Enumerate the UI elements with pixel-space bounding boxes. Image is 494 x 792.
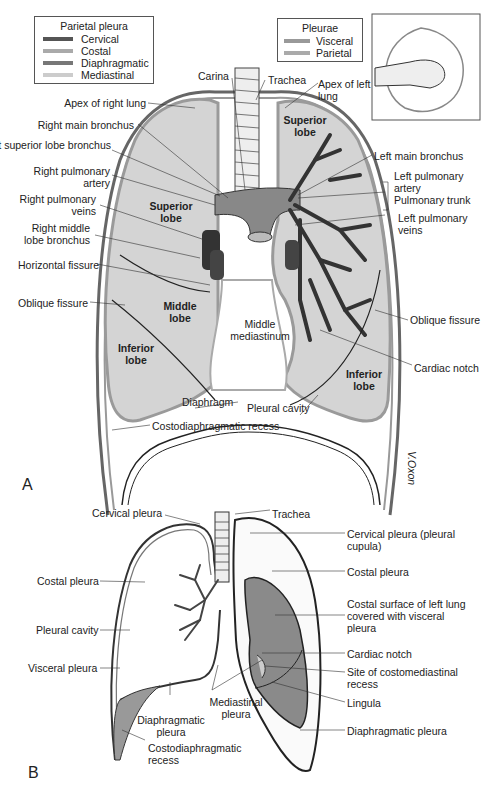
label-apex-left-lung: Apex of left lung: [318, 78, 372, 102]
legend-pleurae: Pleurae Visceral Parietal: [277, 18, 363, 62]
label-right-main-bronchus: Right main bronchus: [38, 119, 134, 131]
panel-label-a: A: [22, 476, 33, 494]
legend-item-mediastinal: Mediastinal: [35, 69, 153, 81]
legend-item-cervical: Cervical: [35, 33, 153, 45]
label-visceral-pleura-b: Visceral pleura: [28, 662, 97, 674]
lobe-left-superior: Superior lobe: [280, 114, 330, 138]
label-costal-pleura-b-left: Costal pleura: [37, 575, 99, 587]
lobe-right-middle: Middle lobe: [160, 300, 200, 324]
label-costodiaphragmatic-recess-a: Costodiaphragmatic recess: [152, 420, 279, 432]
label-diaphragm: Diaphragm: [182, 396, 233, 408]
label-trachea-b: Trachea: [272, 508, 310, 520]
label-right-superior-lobe-bronchus: Right superior lobe bronchus: [0, 139, 111, 151]
label-lingula: Lingula: [347, 697, 381, 709]
label-pulmonary-trunk: Pulmonary trunk: [394, 194, 470, 206]
legend-item-parietal: Parietal: [278, 47, 362, 59]
lobe-left-inferior: Inferior lobe: [340, 368, 388, 392]
bronchial-tree-b: [175, 565, 218, 640]
label-apex-right-lung: Apex of right lung: [64, 97, 146, 109]
label-costal-pleura-b-right: Costal pleura: [347, 566, 409, 578]
label-pleural-cavity-a: Pleural cavity: [247, 402, 309, 414]
label-costomediastinal-recess: Site of costomediastinal recess: [347, 666, 467, 690]
legend-item-visceral: Visceral: [278, 35, 362, 47]
label-middle-mediastinum: Middle mediastinum: [230, 318, 290, 342]
label-cervical-pleura-b: Cervical pleura: [92, 507, 162, 519]
label-cardiac-notch-b: Cardiac notch: [347, 648, 412, 660]
artist-signature: V.Oxon: [406, 451, 418, 485]
label-left-pulmonary-veins: Left pulmonary veins: [398, 212, 468, 236]
label-costal-surface-left-lung: Costal surface of left lung covered with…: [347, 598, 467, 634]
lobe-right-inferior: Inferior lobe: [112, 342, 160, 366]
label-oblique-fissure-left: Oblique fissure: [410, 314, 480, 326]
legend-parietal-pleura: Parietal pleura Cervical Costal Diaphrag…: [34, 16, 154, 84]
label-pleural-cavity-b: Pleural cavity: [36, 624, 98, 636]
label-left-main-bronchus: Left main bronchus: [374, 150, 463, 162]
legend-item-diaphragmatic: Diaphragmatic: [35, 57, 153, 69]
label-cardiac-notch: Cardiac notch: [414, 362, 479, 374]
label-right-pulmonary-veins: Right pulmonary veins: [16, 193, 96, 217]
lobe-right-superior: Superior lobe: [146, 200, 196, 224]
label-left-pulmonary-artery: Left pulmonary artery: [394, 170, 464, 194]
label-oblique-fissure-right: Oblique fissure: [18, 297, 88, 309]
label-diaphragmatic-pleura-b-left: Diaphragmatic pleura: [136, 714, 206, 738]
legend-title: Parietal pleura: [35, 20, 153, 32]
label-trachea: Trachea: [268, 74, 306, 86]
label-cervical-pleura-cupula: Cervical pleura (pleural cupula): [347, 528, 457, 552]
label-costodiaphragmatic-recess-b: Costodiaphragmatic recess: [148, 742, 238, 766]
legend-title: Pleurae: [278, 22, 362, 34]
panel-label-b: B: [28, 764, 39, 782]
label-horizontal-fissure: Horizontal fissure: [18, 259, 99, 271]
legend-item-costal: Costal: [35, 45, 153, 57]
right-lung: [105, 99, 218, 421]
trachea-b: [215, 512, 229, 582]
label-mediastinal-pleura-b: Mediastinal pleura: [206, 696, 266, 720]
label-right-middle-lobe-bronchus: Right middle lobe bronchus: [20, 222, 90, 246]
label-right-pulmonary-artery: Right pulmonary artery: [30, 165, 110, 189]
label-carina: Carina: [198, 70, 229, 82]
label-diaphragmatic-pleura-b-right: Diaphragmatic pleura: [347, 725, 447, 737]
